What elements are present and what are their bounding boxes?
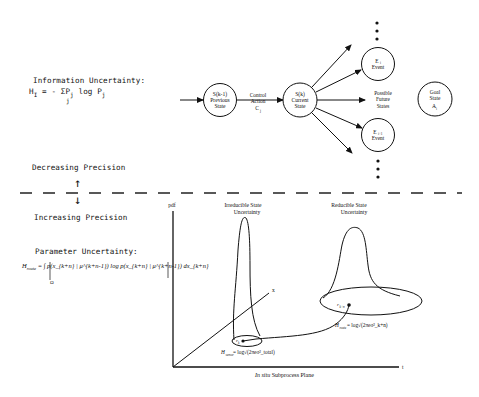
goal-state-line2: State	[430, 95, 441, 101]
goal-state-sub: i	[436, 107, 437, 111]
h-sensor-rhs: = log√(2πeσ²_total)	[233, 349, 275, 356]
point-rkn-sub: k+n	[340, 305, 346, 309]
control-action-line3: C	[255, 105, 259, 111]
branch-arrow-top	[312, 45, 351, 87]
reducible-label-line1: Reducible State	[331, 202, 367, 208]
future-states-line2: Future	[376, 96, 390, 102]
h-route-rhs: = log√(2πeσ²_k+n)	[347, 322, 388, 329]
previous-state-line3: State	[214, 103, 226, 109]
irreducible-pdf-curve	[233, 217, 260, 340]
irreducible-label-line2: Uncertainty	[234, 209, 261, 215]
reducible-label-line2: Uncertainty	[341, 209, 368, 215]
pdf-axis-label: pdf	[168, 202, 176, 208]
branch-arrow-event-i1	[316, 108, 362, 128]
event-i1-line2: Event	[372, 135, 385, 141]
x-axis	[173, 293, 269, 367]
ellipsis-bottom-icon	[376, 159, 379, 178]
current-state-line3: State	[294, 103, 306, 109]
h-route-sub: route	[340, 326, 347, 330]
event-i-line2: Event	[372, 64, 385, 70]
irreducible-label-line1: Irreducible State	[224, 202, 262, 208]
branch-arrow-event-i	[316, 70, 361, 92]
subprocess-plane-caption: In situ Subprocess Plane	[254, 372, 314, 378]
branch-arrow-bottom	[312, 113, 352, 153]
reducible-base-ellipse	[320, 287, 422, 315]
ellipsis-top-icon	[375, 21, 378, 40]
caption-in-situ: In situ	[254, 372, 270, 378]
control-action-line2: Action	[251, 98, 266, 104]
point-rk-sub: k	[238, 341, 240, 345]
x-axis-label: x	[272, 287, 275, 293]
caption-rest: Subprocess Plane	[270, 372, 314, 378]
diagram-canvas: S(k-1) Previous State Control Action C j…	[0, 0, 479, 397]
t-axis-label: t	[402, 364, 404, 370]
control-action-sub: j	[259, 109, 261, 113]
future-states-line3: States	[377, 103, 390, 109]
